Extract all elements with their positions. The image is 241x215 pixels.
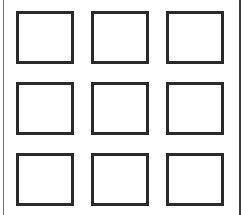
grid-cell-r3-c1[interactable]: [16, 153, 74, 206]
frame-right-border: [239, 0, 241, 215]
grid-cell-r2-c1[interactable]: [16, 82, 74, 135]
grid-cell-r2-c3[interactable]: [166, 82, 224, 135]
grid-cell-r1-c2[interactable]: [91, 11, 149, 64]
grid-cell-r1-c1[interactable]: [16, 11, 74, 64]
grid-cell-r1-c3[interactable]: [166, 11, 224, 64]
grid-cell-r2-c2[interactable]: [91, 82, 149, 135]
box-grid: [16, 11, 224, 206]
frame-left-border: [3, 0, 4, 215]
grid-cell-r3-c2[interactable]: [91, 153, 149, 206]
grid-cell-r3-c3[interactable]: [166, 153, 224, 206]
